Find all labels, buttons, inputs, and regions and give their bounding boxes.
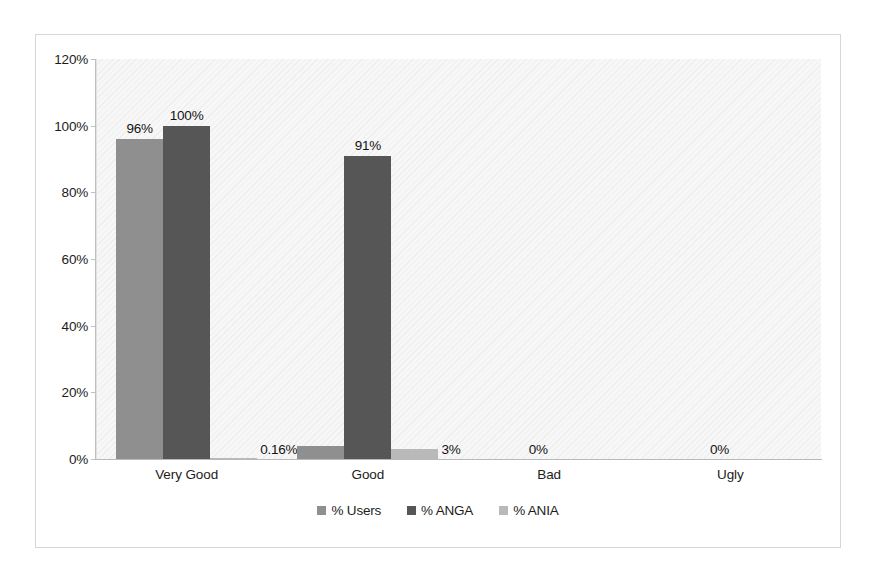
legend-label: % ANGA — [421, 503, 473, 518]
y-axis-tick-mark — [91, 326, 95, 327]
bar-slot: 96% — [116, 59, 163, 459]
bar-slot: 3% — [391, 59, 438, 459]
y-axis-tick-20: 20% — [34, 385, 88, 400]
x-axis-label-bad: Bad — [459, 467, 640, 482]
bar-slot: 0.16% — [210, 59, 257, 459]
x-axis-line — [95, 459, 822, 460]
bar-users-good[interactable]: 4% — [297, 446, 344, 459]
bar-slot: 0% — [479, 59, 526, 459]
chart-frame: 0%20%40%60%80%100%120% 96%100%0.16%4%91%… — [35, 34, 841, 548]
bar-slot: 91% — [344, 59, 391, 459]
legend-item-ania[interactable]: % ANIA — [499, 503, 558, 518]
legend-label: % ANIA — [513, 503, 558, 518]
y-axis-tick-mark — [91, 192, 95, 193]
y-axis-tick-0: 0% — [34, 452, 88, 467]
legend-swatch-icon — [407, 506, 416, 515]
y-axis-tick-60: 60% — [34, 252, 88, 267]
legend-label: % Users — [331, 503, 381, 518]
bar-slot — [526, 59, 573, 459]
bar-anga-good[interactable]: 91% — [344, 156, 391, 459]
bar-anga-very-good[interactable]: 100% — [163, 126, 210, 459]
bar-slot — [707, 59, 754, 459]
y-axis-tick-mark — [91, 392, 95, 393]
y-axis-tick-mark — [91, 259, 95, 260]
x-axis-label-ugly: Ugly — [640, 467, 821, 482]
y-axis-tick-80: 80% — [34, 185, 88, 200]
bar-value-label: 100% — [170, 108, 204, 123]
bar-slot: 100% — [163, 59, 210, 459]
bar-slot: 0% — [660, 59, 707, 459]
y-axis-tick-mark — [91, 59, 95, 60]
y-axis-tick-mark — [91, 459, 95, 460]
bar-group-bars: 0% — [459, 59, 640, 459]
legend-swatch-icon — [317, 506, 326, 515]
bar-value-label: 91% — [355, 138, 381, 153]
chart-legend: % Users% ANGA% ANIA — [36, 503, 840, 518]
bar-slot — [573, 59, 620, 459]
bar-slot: 4% — [297, 59, 344, 459]
bar-ania-very-good[interactable]: 0.16% — [210, 458, 257, 459]
bar-group-bars: 4%91%3% — [277, 59, 458, 459]
y-axis-tick-120: 120% — [34, 52, 88, 67]
bar-group-bars: 96%100%0.16% — [96, 59, 277, 459]
bar-slot — [754, 59, 801, 459]
bar-users-very-good[interactable]: 96% — [116, 139, 163, 459]
bar-group-ugly: 0% — [640, 59, 821, 459]
bar-ania-good[interactable]: 3% — [391, 449, 438, 459]
bar-value-label: 96% — [126, 121, 152, 136]
y-axis-tick-mark — [91, 126, 95, 127]
y-axis-tick-100: 100% — [34, 118, 88, 133]
legend-item-anga[interactable]: % ANGA — [407, 503, 473, 518]
bar-group-bars: 0% — [640, 59, 821, 459]
y-axis-tick-40: 40% — [34, 318, 88, 333]
x-axis-label-good: Good — [277, 467, 458, 482]
legend-swatch-icon — [499, 506, 508, 515]
legend-item-users[interactable]: % Users — [317, 503, 381, 518]
x-axis-label-very-good: Very Good — [96, 467, 277, 482]
bar-group-good: 4%91%3% — [277, 59, 458, 459]
bar-group-very-good: 96%100%0.16% — [96, 59, 277, 459]
bar-group-bad: 0% — [459, 59, 640, 459]
